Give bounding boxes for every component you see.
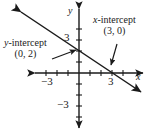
x-intercept-title-rest: -intercept — [97, 14, 135, 25]
y-axis-label: y — [68, 6, 72, 17]
y-intercept-point: (0, 2) — [4, 49, 47, 60]
y-intercept-callout: y-intercept (0, 2) — [4, 38, 47, 59]
x-intercept-point: (3, 0) — [93, 26, 136, 37]
coordinate-plane-figure: y-intercept (0, 2) x-intercept (3, 0) x … — [0, 0, 149, 134]
x-tick-label-3: 3 — [108, 76, 114, 88]
y-intercept-pointer — [52, 50, 76, 59]
y-axis — [76, 9, 82, 128]
y-intercept-title-rest: -intercept — [8, 37, 46, 48]
y-tick-label-negative-3: −3 — [57, 99, 69, 111]
y-tick-label-3: 3 — [64, 32, 70, 44]
x-intercept-callout: x-intercept (3, 0) — [93, 15, 136, 36]
y-intercept-title: y-intercept — [4, 38, 47, 49]
x-tick-label-negative-3: −3 — [41, 76, 53, 88]
x-intercept-title: x-intercept — [93, 15, 136, 26]
x-intercept-pointer — [111, 44, 117, 65]
x-axis-label: x — [136, 72, 140, 83]
